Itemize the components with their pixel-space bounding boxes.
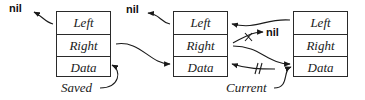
cross-x-mark [245,33,252,41]
list-node-1: Left Right Data [56,11,111,77]
current-variable-label: Current [226,80,267,96]
nil-label-1: nil [9,2,22,14]
arrow-node1-left-to-nil [34,12,53,24]
node1-right-field: Right [57,34,110,56]
node2-right-field: Right [174,34,227,56]
node3-data-field: Data [294,56,347,78]
node1-data-field: Data [57,56,110,78]
node3-left-field: Left [294,12,347,34]
arrow-node2-left-to-nil [148,13,170,24]
node2-data-field: Data [174,56,227,78]
node2-left-field: Left [174,12,227,34]
arrow-current-to-node2-data-crossed [232,64,275,69]
arrow-current-to-node3-data [274,67,291,88]
saved-variable-label: Saved [61,80,92,96]
node1-left-field: Left [57,12,110,34]
arrow-node1-right-to-node2-data [116,44,170,64]
linked-list-diagram: nil nil nil Left Right Data Left Right D… [0,0,365,100]
list-node-2: Left Right Data [173,11,228,77]
node3-right-field: Right [294,34,347,56]
arrow-node3-left-to-node2-left [232,20,290,26]
list-node-3: Left Right Data [293,11,348,77]
nil-label-3: nil [266,26,279,38]
arrow-node2-right-to-node3-data [233,46,290,64]
nil-label-2: nil [126,3,139,15]
